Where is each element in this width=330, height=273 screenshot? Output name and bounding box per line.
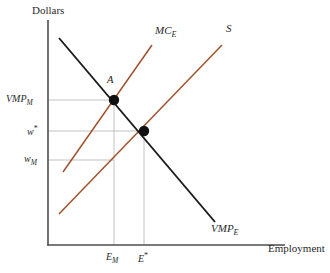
x-tick-label-e-m: EM [106,251,118,265]
y-tick-vmp-m-base: VMP [6,93,27,104]
curve-label-vmp-e-sub: E [234,228,239,237]
point-a-label: A [107,74,113,85]
y-tick-w-star-base: w [27,126,34,137]
chart-canvas [0,0,330,273]
curve-label-mc-e-sub: E [172,30,177,39]
x-tick-e-star-sup: * [144,251,148,260]
curve-label-s: S [226,22,232,34]
x-tick-e-m-sub: M [112,256,118,265]
point-a-marker [109,95,119,105]
x-axis-title: Employment [268,242,325,254]
curve-label-s-base: S [226,22,232,34]
y-axis-title: Dollars [32,4,64,16]
point-competitive-marker [139,126,149,136]
x-tick-label-e-star: E* [138,251,148,264]
y-tick-label-w-m: wM [24,153,37,167]
gridlines-horizontal [48,100,144,160]
y-tick-vmp-m-sub: M [27,98,33,107]
curve-label-mc-e: MCE [155,24,176,39]
y-tick-w-star-sup: * [34,124,38,133]
curve-mc-e [63,45,152,172]
curve-label-vmp-e: VMPE [211,222,239,237]
y-tick-label-vmp-m: VMPM [6,93,33,107]
monopsony-labor-market-diagram: Dollars Employment MCE S VMPE A VMPM w* … [0,0,330,273]
y-tick-w-m-sub: M [31,158,37,167]
y-tick-label-w-star: w* [27,124,38,137]
curve-label-mc-e-base: MC [155,24,172,36]
y-tick-w-m-base: w [24,153,31,164]
curve-label-vmp-e-base: VMP [211,222,234,234]
